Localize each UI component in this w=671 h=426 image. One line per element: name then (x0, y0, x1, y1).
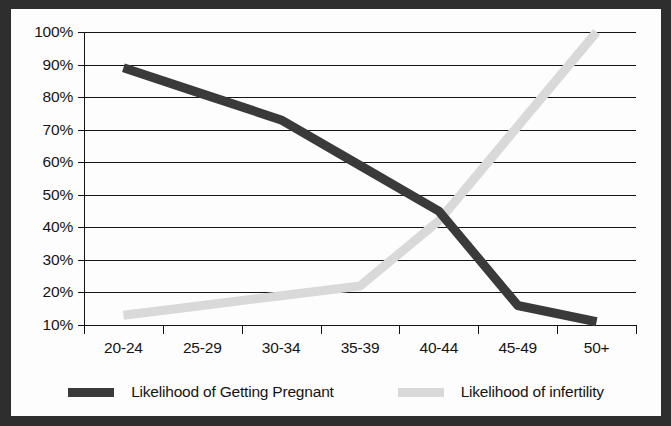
x-axis-tick (321, 325, 322, 334)
x-axis-tick-label: 25-29 (183, 339, 222, 357)
series-line (123, 32, 596, 315)
legend-label: Likelihood of infertility (461, 383, 604, 401)
plot-area: 10%20%30%40%50%60%70%80%90%100% 20-2425-… (84, 32, 636, 325)
y-axis-tick-label: 20% (43, 283, 73, 301)
legend-item[interactable]: Likelihood of infertility (398, 383, 604, 401)
legend-item[interactable]: Likelihood of Getting Pregnant (68, 383, 334, 401)
y-axis-tick-label: 30% (43, 251, 73, 269)
x-axis-tick (478, 325, 479, 334)
y-axis-tick-label: 90% (43, 56, 73, 74)
chart-legend: Likelihood of Getting PregnantLikelihood… (11, 383, 661, 401)
y-axis-tick-label: 70% (43, 121, 73, 139)
y-axis-tick-label: 10% (43, 316, 73, 334)
y-axis-tick-label: 60% (43, 153, 73, 171)
y-axis-tick-label: 40% (43, 218, 73, 236)
x-axis-tick-label: 20-24 (104, 339, 143, 357)
x-axis-tick (242, 325, 243, 334)
gridline (84, 325, 636, 326)
x-axis-tick-label: 40-44 (420, 339, 459, 357)
x-axis-tick-label: 50+ (584, 339, 610, 357)
chart-frame: 10%20%30%40%50%60%70%80%90%100% 20-2425-… (0, 0, 671, 426)
x-axis-tick (84, 325, 85, 334)
x-axis-tick (163, 325, 164, 334)
x-axis-tick-label: 45-49 (498, 339, 537, 357)
y-axis-tick-label: 50% (43, 186, 73, 204)
x-axis-tick (636, 325, 637, 334)
legend-label: Likelihood of Getting Pregnant (131, 383, 334, 401)
series-layer (84, 32, 636, 325)
x-axis-tick-label: 30-34 (262, 339, 301, 357)
y-axis-tick-label: 80% (43, 88, 73, 106)
chart-card: 10%20%30%40%50%60%70%80%90%100% 20-2425-… (11, 9, 661, 416)
x-axis-tick (557, 325, 558, 334)
y-axis-tick-label: 100% (34, 23, 73, 41)
legend-swatch-dark-icon (68, 388, 114, 397)
legend-swatch-light-icon (398, 388, 444, 397)
x-axis-tick (399, 325, 400, 334)
x-axis-tick-label: 35-39 (341, 339, 380, 357)
